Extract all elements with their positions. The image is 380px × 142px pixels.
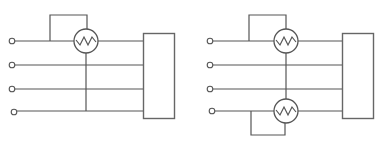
- terminal-1: [9, 38, 15, 44]
- terminal-2: [207, 62, 213, 68]
- terminal-3: [9, 86, 15, 92]
- terminal-4: [11, 109, 17, 115]
- wattmeter-top-icon: [274, 29, 298, 53]
- diagram-two-wattmeter: [207, 15, 373, 135]
- load-box: [144, 34, 175, 119]
- circuit-figure: [0, 0, 380, 142]
- diagram-single-wattmeter: [9, 15, 174, 119]
- terminal-1: [207, 38, 213, 44]
- wattmeter-bottom-icon: [274, 99, 298, 123]
- load-box: [343, 34, 374, 119]
- terminal-4: [209, 108, 215, 114]
- terminal-2: [9, 62, 15, 68]
- wattmeter-icon: [74, 29, 98, 53]
- terminal-3: [207, 86, 213, 92]
